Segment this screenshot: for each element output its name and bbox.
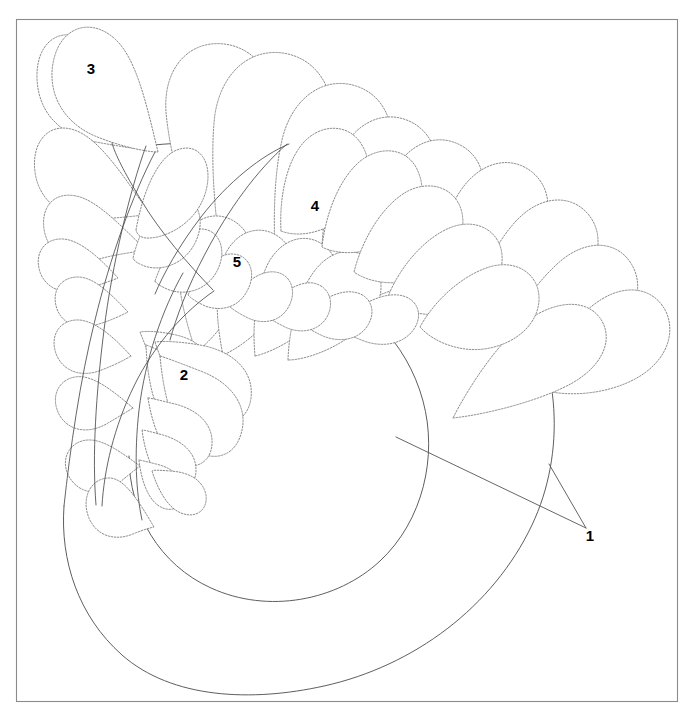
callout-label-4: 4 [311, 197, 320, 214]
figure-root: 1 2 3 4 5 [0, 0, 696, 721]
figure-canvas: 1 2 3 4 5 [0, 0, 696, 721]
callout-label-1: 1 [586, 527, 594, 544]
callout-label-3: 3 [87, 60, 95, 77]
callout-label-2: 2 [180, 366, 188, 383]
callout-label-5: 5 [233, 253, 241, 270]
